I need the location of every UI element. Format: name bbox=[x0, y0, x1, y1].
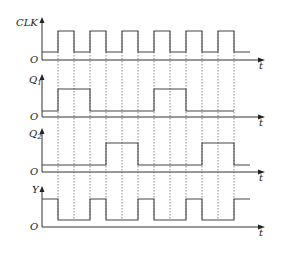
waveform bbox=[42, 143, 250, 165]
dashed-guide-lines bbox=[58, 31, 234, 220]
signal-label: Q2 bbox=[29, 128, 42, 141]
signal-q1: tOQ1 bbox=[29, 74, 265, 128]
signal-label: CLK bbox=[16, 17, 38, 28]
time-axis-label: t bbox=[259, 172, 264, 183]
signal-y: tOY bbox=[30, 184, 265, 238]
origin-label: O bbox=[30, 166, 38, 177]
signal-traces: tOCLKtOQ1tOQ2tOY bbox=[16, 17, 265, 238]
signal-q2: tOQ2 bbox=[29, 128, 265, 183]
y-axis-arrow-icon bbox=[40, 17, 45, 23]
origin-label: O bbox=[30, 54, 38, 65]
time-axis-label: t bbox=[259, 227, 264, 238]
waveform bbox=[42, 31, 250, 52]
waveform bbox=[42, 199, 250, 220]
origin-label: O bbox=[30, 221, 38, 232]
time-axis-label: t bbox=[259, 117, 264, 128]
origin-label: O bbox=[30, 111, 38, 122]
timing-diagram: tOCLKtOQ1tOQ2tOY bbox=[0, 0, 283, 254]
signal-label: Q1 bbox=[29, 74, 42, 87]
y-axis-arrow-icon bbox=[40, 186, 45, 192]
signal-clk: tOCLK bbox=[16, 17, 265, 71]
time-axis-label: t bbox=[259, 60, 264, 71]
signal-label: Y bbox=[32, 184, 40, 195]
